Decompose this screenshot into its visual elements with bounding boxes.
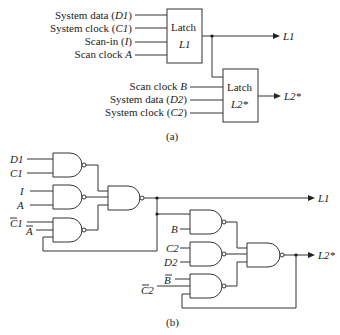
gate6-inputs <box>180 248 190 262</box>
latch-l2-box <box>223 69 258 122</box>
latch-l2-name: L2* <box>230 98 249 110</box>
input-c2: C2 <box>166 242 179 254</box>
arrow-icon <box>308 252 315 258</box>
output-label-l1: L1 <box>282 30 295 42</box>
input-i: I <box>19 185 25 197</box>
inversion-bubble <box>280 253 284 257</box>
gate4-inputs <box>86 165 108 230</box>
input-d2: D2 <box>163 256 178 268</box>
latch-l2-input-wires <box>190 87 223 113</box>
part-a: Latch L1 System data (D1) System clock (… <box>50 9 302 143</box>
arrow-icon <box>273 33 280 39</box>
caption-a: (a) <box>166 130 179 143</box>
input-c2-bar: C2 <box>141 284 154 296</box>
inversion-bubble <box>222 252 226 256</box>
nand-gate-6 <box>190 242 222 266</box>
input-a: A <box>16 199 24 211</box>
nand-gate-5 <box>190 210 222 234</box>
input-label-scan-clock-a: Scan clock A <box>75 48 133 60</box>
nand-gate-1 <box>53 153 82 177</box>
inversion-bubble <box>82 163 86 167</box>
input-c1: C1 <box>10 167 23 179</box>
input-label-c1: System clock (C1) <box>50 22 132 35</box>
caption-b: (b) <box>166 316 179 329</box>
input-label-scan-clock-b: Scan clock B <box>130 80 188 92</box>
inversion-bubble <box>140 196 144 200</box>
nand-gate-2 <box>53 185 82 209</box>
latch-l1-name: L1 <box>178 38 191 50</box>
input-label-scan-in: Scan-in (I) <box>85 35 133 48</box>
inversion-bubble <box>82 228 86 232</box>
gate7-inputs <box>157 279 190 294</box>
input-label-c2: System clock (C2) <box>105 106 187 119</box>
arrow-icon <box>308 195 315 201</box>
nand-gate-8 <box>247 243 280 267</box>
arrow-icon <box>274 93 281 99</box>
latch-l2-title: Latch <box>227 81 253 93</box>
output-label-l2: L2* <box>283 90 302 102</box>
output-l1: L1 <box>317 192 330 204</box>
latch-l1-box <box>167 9 202 63</box>
nand-gate-7 <box>190 274 222 298</box>
input-a-bar: A <box>25 225 33 237</box>
part-b: D1 C1 I A C1 A L1 B C2 D2 <box>9 153 336 329</box>
gate2-inputs <box>30 191 53 205</box>
nand-gate-4 <box>108 186 140 210</box>
output-l2: L2* <box>317 249 336 261</box>
scan-latch-diagram: Latch L1 System data (D1) System clock (… <box>0 0 340 335</box>
input-c1-bar: C1 <box>10 217 23 229</box>
latch-l1-title: Latch <box>171 21 197 33</box>
l1-to-l2-wire <box>212 36 223 77</box>
input-b-bar: B <box>164 274 171 286</box>
gate8-inputs <box>226 222 247 286</box>
inversion-bubble <box>222 220 226 224</box>
input-d1: D1 <box>9 153 23 165</box>
inversion-bubble <box>222 284 226 288</box>
gate1-inputs <box>27 159 53 173</box>
input-b: B <box>171 223 178 235</box>
nand-gate-3 <box>53 218 82 242</box>
inversion-bubble <box>82 195 86 199</box>
latch-l1-input-wires <box>135 15 167 55</box>
input-label-d1: System data (D1) <box>55 9 132 22</box>
input-label-d2: System data (D2) <box>110 93 187 106</box>
